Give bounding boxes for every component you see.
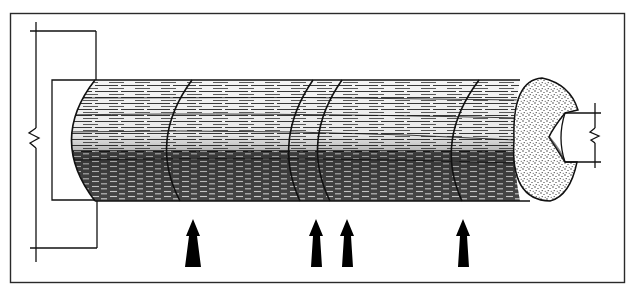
arrow-up-icon <box>185 219 201 267</box>
right-shaft-bracket <box>561 103 601 168</box>
force-arrows <box>185 219 470 267</box>
diagram-canvas <box>0 0 636 288</box>
log-end-cross-section <box>514 78 578 201</box>
arrow-up-icon <box>456 219 470 267</box>
arrow-up-icon <box>340 219 354 267</box>
right-break-zigzag-icon <box>590 128 599 143</box>
log-cylinder <box>50 80 530 202</box>
left-break-zigzag-icon <box>29 128 39 148</box>
arrow-up-icon <box>309 219 323 267</box>
